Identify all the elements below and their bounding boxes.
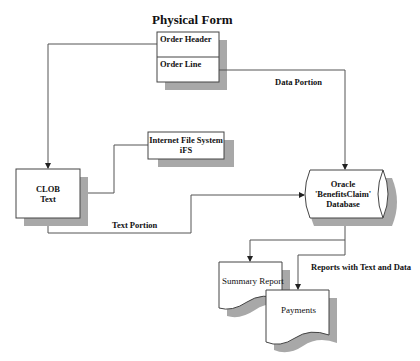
reports-label: Reports with Text and Data — [311, 262, 411, 272]
clob-label: CLOB Text — [16, 184, 80, 204]
data-portion-label: Data Portion — [275, 77, 322, 87]
database-label-line3: Database — [302, 199, 384, 209]
clob-label-line1: CLOB — [16, 184, 80, 194]
ifs-label-line2: iFS — [148, 145, 224, 155]
ifs-label-line1: Internet File System — [148, 135, 224, 145]
database-label-line2: 'BenefitsClaim' — [302, 189, 384, 199]
database-label: Oracle 'BenefitsClaim' Database — [302, 179, 384, 209]
diagram-title: Physical Form — [152, 12, 233, 28]
text-portion-label: Text Portion — [112, 220, 157, 230]
order-header-label: Order Header — [160, 34, 212, 44]
payments-label: Payments — [281, 305, 316, 315]
clob-label-line2: Text — [16, 194, 80, 204]
ifs-label: Internet File System iFS — [148, 135, 224, 155]
edge-clob-to-ifs — [88, 145, 148, 193]
database-label-line1: Oracle — [302, 179, 384, 189]
order-line-label: Order Line — [160, 59, 201, 69]
summary-report-label: Summary Report — [222, 276, 284, 286]
edge-order-to-clob — [48, 44, 157, 168]
